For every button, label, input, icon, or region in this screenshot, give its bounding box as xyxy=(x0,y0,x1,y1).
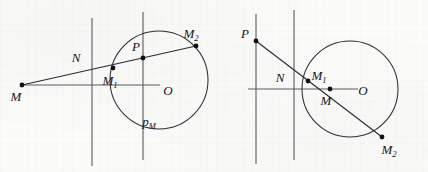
label-m1-left-subscript: 1 xyxy=(113,80,117,90)
label-m2-left: M2 xyxy=(182,26,199,43)
label-p-left: P xyxy=(131,39,140,54)
label-n-right: N xyxy=(275,70,286,85)
geometry-figure: M M1 P M2 N O pM xyxy=(0,0,428,172)
point-m1-left xyxy=(111,66,116,71)
label-m-left: M xyxy=(10,89,23,104)
point-m-right xyxy=(328,87,333,92)
label-pm-left: pM xyxy=(141,114,157,131)
point-m2-right xyxy=(380,135,385,140)
point-p-right xyxy=(254,39,259,44)
label-n-left: N xyxy=(71,50,82,65)
panel-left: M M1 P M2 N O pM xyxy=(10,12,208,166)
panel-right: P M1 M M2 N O xyxy=(240,10,398,164)
label-o-right: O xyxy=(358,83,368,98)
label-m2-right: M2 xyxy=(380,142,397,159)
label-m2-right-subscript: 2 xyxy=(392,149,397,159)
figure-canvas: M M1 P M2 N O pM xyxy=(0,0,428,172)
point-m-left xyxy=(20,83,25,88)
point-p-left xyxy=(141,56,146,61)
label-p-right: P xyxy=(240,26,249,41)
label-pm-left-subscript: M xyxy=(148,121,157,131)
label-m1-left: M1 xyxy=(101,73,117,90)
circle-left xyxy=(110,31,208,129)
point-m2-left xyxy=(194,44,199,49)
point-m1-right xyxy=(306,79,311,84)
label-m1-right: M1 xyxy=(310,68,326,85)
label-m1-right-subscript: 1 xyxy=(322,75,326,85)
label-m2-left-subscript: 2 xyxy=(194,33,199,43)
label-m-right: M xyxy=(320,93,333,108)
label-o-left: O xyxy=(163,83,173,98)
